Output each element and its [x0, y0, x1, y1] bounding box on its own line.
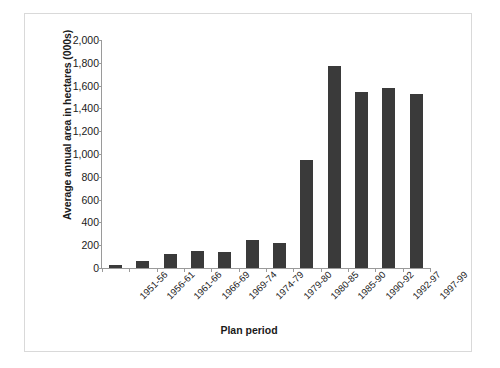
x-tick-label: 1997-99 — [438, 269, 470, 301]
bar — [382, 88, 395, 268]
bar — [328, 66, 341, 268]
y-tick-mark — [98, 200, 102, 201]
x-tick-label: 1992-97 — [410, 269, 442, 301]
bar-series — [102, 40, 430, 268]
y-tick-label: 1,400 — [55, 102, 99, 114]
y-tick-mark — [98, 245, 102, 246]
y-tick-mark — [98, 40, 102, 41]
x-tick-label: 1985-90 — [356, 269, 388, 301]
bar — [218, 252, 231, 268]
y-tick-label: 2,000 — [55, 34, 99, 46]
y-tick-mark — [98, 177, 102, 178]
bar-slot — [129, 40, 156, 268]
x-tick-label: 1951-56 — [137, 269, 169, 301]
y-tick-label: 1,800 — [55, 57, 99, 69]
x-tick-label: 1980-85 — [328, 269, 360, 301]
x-tick-label: 1966-69 — [219, 269, 251, 301]
x-axis-tick-labels: 1951-561956-611961-661966-691969-741974-… — [101, 269, 429, 329]
y-tick-mark — [98, 108, 102, 109]
bar — [164, 254, 177, 268]
y-tick-mark — [98, 63, 102, 64]
y-tick-mark — [98, 222, 102, 223]
x-axis-title: Plan period — [25, 324, 473, 336]
bar-slot — [375, 40, 402, 268]
y-tick-label: 0 — [55, 262, 99, 274]
bar — [246, 240, 259, 268]
bar-slot — [184, 40, 211, 268]
y-tick-label: 1,200 — [55, 125, 99, 137]
bar-slot — [321, 40, 348, 268]
bar — [355, 92, 368, 268]
bar-slot — [157, 40, 184, 268]
y-tick-mark — [98, 131, 102, 132]
y-axis-tick-labels: 02004006008001,0001,2001,4001,6001,8002,… — [55, 34, 99, 274]
bar-slot — [239, 40, 266, 268]
bar — [300, 160, 313, 268]
y-tick-mark — [98, 86, 102, 87]
x-tick-label: 1956-61 — [164, 269, 196, 301]
x-tick-label: 1979-80 — [301, 269, 333, 301]
bar-slot — [348, 40, 375, 268]
bar — [273, 243, 286, 268]
bar — [410, 94, 423, 268]
bar-slot — [266, 40, 293, 268]
y-tick-label: 1,600 — [55, 80, 99, 92]
bar-slot — [211, 40, 238, 268]
bar-slot — [102, 40, 129, 268]
x-tick-label: 1990-92 — [383, 269, 415, 301]
y-tick-label: 200 — [55, 239, 99, 251]
chart-frame: Average annual area in hectares (000s) 0… — [24, 13, 472, 352]
y-tick-label: 800 — [55, 171, 99, 183]
plot-area — [101, 40, 430, 269]
x-tick-label: 1961-66 — [192, 269, 224, 301]
bar-slot — [403, 40, 430, 268]
bar-slot — [293, 40, 320, 268]
bar — [136, 261, 149, 268]
bar — [109, 265, 122, 268]
bar — [191, 251, 204, 268]
y-tick-label: 1,000 — [55, 148, 99, 160]
y-tick-mark — [98, 154, 102, 155]
y-tick-label: 400 — [55, 216, 99, 228]
y-tick-label: 600 — [55, 194, 99, 206]
x-tick-label: 1969-74 — [246, 269, 278, 301]
x-tick-label: 1974-79 — [274, 269, 306, 301]
